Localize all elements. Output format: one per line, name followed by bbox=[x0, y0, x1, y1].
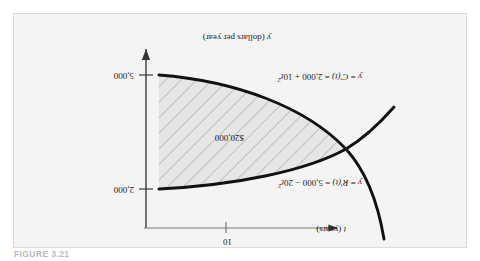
y-axis-label-units: (dollars per year) bbox=[203, 33, 265, 43]
mc-fn: C′(t) bbox=[332, 72, 348, 82]
x-axis-label-symbol: t bbox=[343, 225, 346, 235]
marginal-cost-curve-label: y = C′(t) = 2,000 + 10t2 bbox=[278, 72, 362, 84]
x-axis-label: t (years) bbox=[316, 225, 346, 235]
y-axis-label-symbol: y bbox=[267, 33, 271, 43]
plot-area bbox=[12, 12, 466, 247]
mc-lhs: y bbox=[358, 72, 362, 82]
mr-lhs: y bbox=[358, 178, 362, 188]
y-axis-tick-label-2000: 2,000 bbox=[114, 185, 134, 195]
mr-eq1: = bbox=[348, 178, 358, 188]
mc-expr-var: t bbox=[281, 72, 284, 82]
shaded-region-label: $20,000 bbox=[215, 133, 244, 143]
figure-panel: t (years) 10 2,000 5,000 y (dollars per … bbox=[13, 13, 467, 248]
y-axis-label: y (dollars per year) bbox=[203, 33, 271, 43]
mc-expr-exp: 2 bbox=[278, 77, 281, 84]
figure-screenshot: FIGURE 3.21 bbox=[0, 0, 480, 261]
x-axis-label-units: (years) bbox=[316, 225, 341, 235]
mr-fn: R′(t) bbox=[332, 178, 348, 188]
mr-expr-base: 5,000 − 20 bbox=[284, 178, 323, 188]
mr-expr-exp: 2 bbox=[278, 183, 281, 190]
mc-eq2: = bbox=[322, 72, 332, 82]
marginal-revenue-curve-label: y = R′(t) = 5,000 − 20t2 bbox=[278, 178, 362, 190]
y-axis-tick-label-5000: 5,000 bbox=[114, 71, 134, 81]
mc-eq1: = bbox=[348, 72, 358, 82]
mr-eq2: = bbox=[323, 178, 333, 188]
rotated-figure-container: t (years) 10 2,000 5,000 y (dollars per … bbox=[0, 0, 480, 261]
x-axis-tick-label-10: 10 bbox=[223, 237, 232, 247]
mc-expr-base: 2,000 + 10 bbox=[284, 72, 323, 82]
